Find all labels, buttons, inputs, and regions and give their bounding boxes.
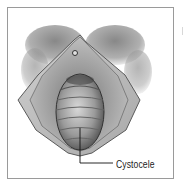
urethral-opening xyxy=(73,51,78,56)
cystocele-label: Cystocele xyxy=(116,158,155,170)
anatomical-illustration xyxy=(0,0,186,189)
